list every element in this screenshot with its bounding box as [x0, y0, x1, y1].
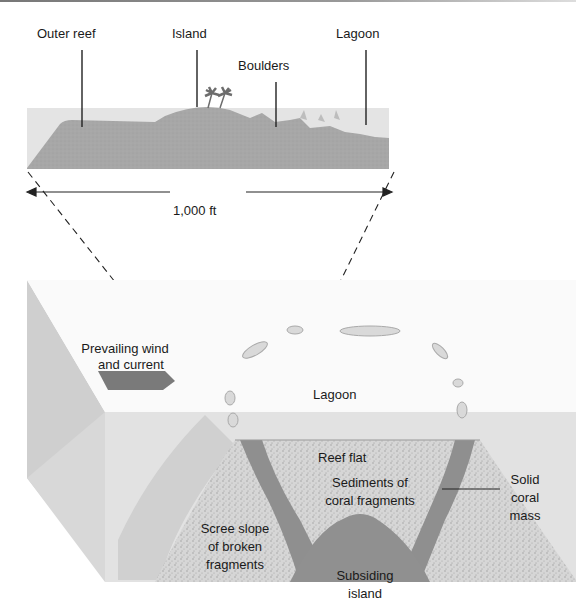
wind-arrow-icon	[98, 371, 175, 390]
label-solid-line1: Solid	[500, 472, 550, 487]
label-wind-line1: Prevailing wind	[60, 341, 190, 356]
block-diagram	[27, 280, 576, 582]
label-subsiding-line2: island	[320, 586, 410, 601]
label-sediments-line2: coral fragments	[300, 493, 440, 508]
label-reef-flat: Reef flat	[318, 450, 366, 465]
label-boulders: Boulders	[238, 58, 289, 73]
label-lagoon: Lagoon	[313, 387, 356, 402]
palm-trees-icon	[205, 87, 232, 108]
label-outer-reef: Outer reef	[37, 26, 96, 41]
label-sediments-line1: Sediments of	[300, 475, 440, 490]
top-cross-section	[27, 50, 392, 196]
label-scree-line2: of broken	[180, 539, 290, 554]
label-wind-line2: and current	[76, 357, 186, 372]
label-island: Island	[172, 26, 207, 41]
atoll-diagram	[0, 0, 576, 607]
label-scree-line1: Scree slope	[180, 521, 290, 536]
scale-arrow	[27, 188, 392, 196]
label-solid-line3: mass	[500, 508, 550, 523]
label-scree-line3: fragments	[180, 557, 290, 572]
label-solid-line2: coral	[500, 490, 550, 505]
scale-label: 1,000 ft	[173, 203, 216, 218]
label-subsiding-line1: Subsiding	[320, 568, 410, 583]
label-lagoon-top: Lagoon	[336, 26, 379, 41]
